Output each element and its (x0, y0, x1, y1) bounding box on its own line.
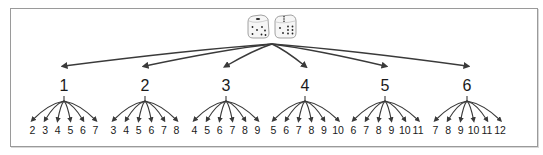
sum-value: 3 (42, 124, 48, 136)
first-die-value-4: 4 (301, 77, 310, 94)
sum-value: 6 (283, 124, 289, 136)
sum-value: 8 (174, 124, 180, 136)
die-five-icon (248, 15, 269, 38)
sum-value: 8 (445, 124, 451, 136)
sum-value: 7 (433, 124, 439, 136)
sum-values: 2345673456784567895678910678910117891011… (30, 124, 506, 136)
sum-value: 6 (80, 124, 86, 136)
arrow-to-1 (64, 44, 272, 66)
sum-value: 5 (67, 124, 73, 136)
sum-value: 10 (468, 124, 480, 136)
sum-value: 6 (217, 124, 223, 136)
first-die-value-2: 2 (141, 77, 150, 94)
sum-value: 8 (308, 124, 314, 136)
sum-value: 8 (376, 124, 382, 136)
arrow-to-4 (272, 44, 305, 66)
first-die-value-6: 6 (463, 77, 472, 94)
arrow-to-2 (145, 44, 272, 66)
sum-value: 5 (136, 124, 142, 136)
sum-value: 11 (413, 124, 424, 136)
first-die-value-3: 3 (222, 77, 231, 94)
sum-value: 11 (481, 124, 492, 136)
arrow-to-5 (272, 44, 385, 66)
first-die-value-1: 1 (60, 77, 69, 94)
sum-arrows (33, 96, 501, 120)
first-die-values: 123456 (60, 77, 472, 94)
sum-value: 7 (229, 124, 235, 136)
first-die-arrows (64, 44, 467, 66)
sum-value: 9 (321, 124, 327, 136)
dice-tree-diagram: 123456 234567345678456789567891067891011… (0, 0, 543, 155)
sum-value: 6 (148, 124, 154, 136)
sum-value: 10 (332, 124, 344, 136)
sum-value: 4 (123, 124, 129, 136)
sum-value: 3 (111, 124, 117, 136)
sum-value: 8 (242, 124, 248, 136)
sum-value: 7 (363, 124, 369, 136)
sum-value: 5 (271, 124, 277, 136)
two-dice-icon (248, 15, 296, 38)
sum-value: 9 (388, 124, 394, 136)
first-die-value-5: 5 (381, 77, 390, 94)
sum-value: 12 (494, 124, 506, 136)
sum-value: 7 (296, 124, 302, 136)
sum-value: 2 (30, 124, 36, 136)
sum-value: 5 (204, 124, 210, 136)
sum-value: 10 (399, 124, 411, 136)
sum-value: 4 (192, 124, 198, 136)
sum-value: 6 (351, 124, 357, 136)
die-six-icon (275, 15, 296, 38)
sum-value: 7 (161, 124, 167, 136)
sum-value: 7 (93, 124, 99, 136)
sum-value: 9 (458, 124, 464, 136)
sum-value: 4 (55, 124, 61, 136)
sum-value: 9 (255, 124, 261, 136)
